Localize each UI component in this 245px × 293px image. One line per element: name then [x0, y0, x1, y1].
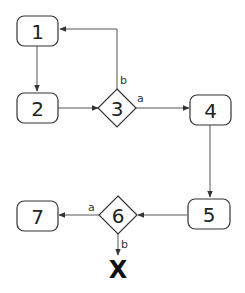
edge-label-a: a [137, 92, 144, 105]
edge-label-a: a [88, 201, 95, 214]
edge-label-b: b [121, 238, 128, 251]
node-3-label: 3 [111, 97, 124, 121]
node-5-label: 5 [203, 203, 216, 227]
node-4-label: 4 [204, 99, 217, 123]
node-1: 1 [17, 16, 58, 46]
terminal-end: X [109, 256, 128, 284]
edge-3-to-4: a [136, 92, 189, 108]
edge-3-to-1: b [60, 29, 127, 89]
node-4: 4 [190, 95, 231, 125]
node-6-label: 6 [112, 204, 125, 228]
flowchart-diagram: a b a b 1 2 3 4 5 6 7 [0, 0, 245, 293]
node-2: 2 [17, 93, 58, 123]
node-6-decision: 6 [99, 196, 137, 234]
edge-6-to-end: b [118, 233, 128, 255]
edge-label-b: b [120, 74, 127, 87]
end-x-icon: X [109, 256, 128, 284]
node-5: 5 [188, 199, 230, 229]
node-7: 7 [17, 201, 58, 231]
node-7-label: 7 [31, 205, 44, 229]
node-1-label: 1 [31, 20, 44, 44]
node-3-decision: 3 [98, 89, 136, 127]
edge-6-to-7: a [59, 201, 99, 215]
node-2-label: 2 [31, 97, 44, 121]
